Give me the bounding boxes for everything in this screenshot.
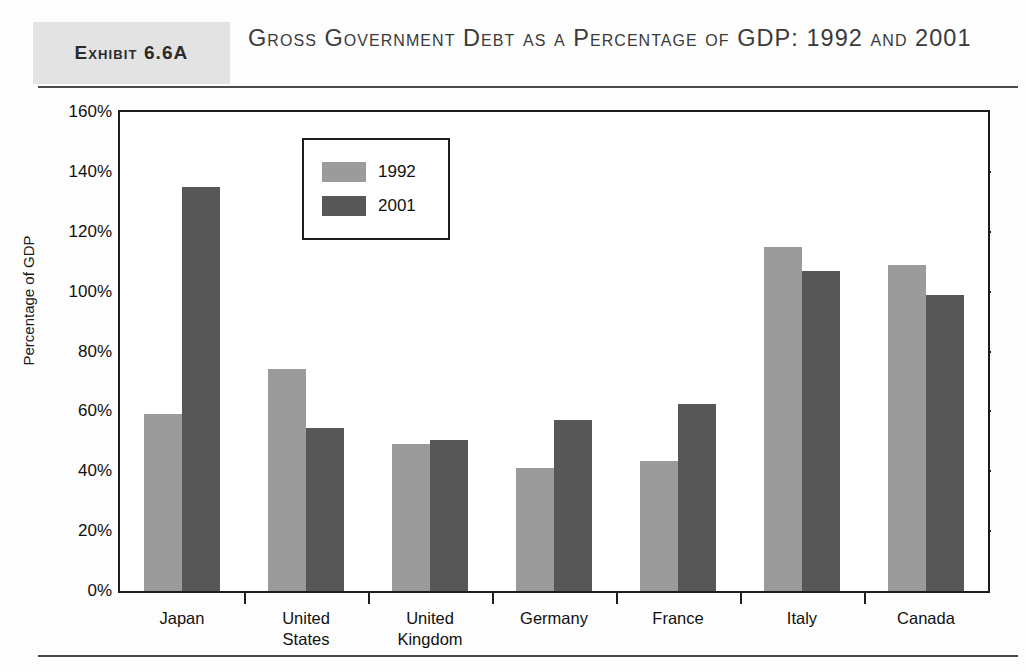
y-axis-tick-label: 100% [48,282,112,302]
bar-2001 [306,428,344,591]
bar-1992 [268,369,306,591]
legend-label: 1992 [378,162,416,182]
bar-group [740,112,864,591]
y-axis-tick-label: 40% [48,461,112,481]
exhibit-page: Exhibit 6.6A Gross Government Debt as a … [0,0,1026,672]
legend-item: 1992 [322,162,448,182]
legend-item: 2001 [322,196,448,216]
bar-2001 [554,420,592,591]
x-axis-tick-label: UnitedKingdom [368,608,492,650]
bar-1992 [516,468,554,591]
exhibit-number-badge: Exhibit 6.6A [33,22,230,84]
bar-group [120,112,244,591]
x-axis-tick-label: UnitedStates [244,608,368,650]
bar-group [864,112,988,591]
bar-2001 [926,295,964,591]
y-axis-tick-label: 140% [48,162,112,182]
bar-1992 [144,414,182,591]
legend-swatch [322,162,366,182]
x-axis-separator [616,591,618,604]
header-divider-rule [38,86,1018,88]
y-axis-tick-label: 120% [48,222,112,242]
x-axis-tick-label: Italy [740,608,864,650]
x-axis-tick-label: France [616,608,740,650]
x-axis-separator [492,591,494,604]
x-axis-tick-label: Canada [864,608,988,650]
exhibit-title: Gross Government Debt as a Percentage of… [248,24,988,52]
exhibit-number-label: Exhibit 6.6A [75,42,189,64]
bar-1992 [888,265,926,591]
legend-label: 2001 [378,196,416,216]
bar-1992 [640,461,678,591]
y-axis-tick-label: 60% [48,401,112,421]
chart-legend: 19922001 [302,138,450,240]
bar-2001 [802,271,840,591]
bar-1992 [392,444,430,591]
bar-2001 [182,187,220,591]
y-axis-tick-label: 0% [48,581,112,601]
exhibit-header: Exhibit 6.6A Gross Government Debt as a … [0,0,1026,86]
bar-series-layer [120,112,988,591]
y-axis-title: Percentage of GDP [20,171,37,431]
y-axis-tick-label: 160% [48,102,112,122]
x-axis-tick-label: Germany [492,608,616,650]
footer-divider-rule [38,655,1018,657]
y-axis-tick-label: 80% [48,342,112,362]
y-axis-tick-label: 20% [48,521,112,541]
x-axis-separator [368,591,370,604]
bar-group [492,112,616,591]
y-axis-tick-labels: 160%140%120%100%80%60%40%20%0% [40,110,112,593]
x-axis-tick-label: Japan [120,608,244,650]
x-axis-separator [244,591,246,604]
bar-group [616,112,740,591]
bar-2001 [678,404,716,591]
bar-1992 [764,247,802,591]
bar-2001 [430,440,468,591]
bar-chart: Percentage of GDP 160%140%120%100%80%60%… [0,96,1026,641]
legend-swatch [322,196,366,216]
x-axis-separator [740,591,742,604]
x-axis-tick-labels: JapanUnitedStatesUnitedKingdomGermanyFra… [120,608,988,650]
x-axis-separator [864,591,866,604]
x-axis-separators [120,591,988,605]
